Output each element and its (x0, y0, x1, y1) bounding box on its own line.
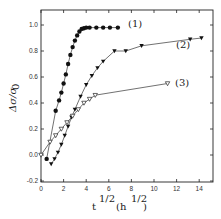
series-label-1: (1) (128, 18, 142, 29)
svg-text:): ) (143, 201, 147, 212)
svg-text:0: 0 (39, 185, 43, 192)
svg-text:-0.2: -0.2 (27, 177, 39, 184)
svg-text:10: 10 (150, 185, 158, 192)
x-axis-label: t 1/2 (h 1/2 ) (92, 193, 147, 212)
y-axis-label: Δσ/σ 0 (7, 84, 21, 113)
svg-text:0.4: 0.4 (29, 99, 38, 106)
chart: 02468101214 -0.20.00.20.40.60.81.0 (1) (… (0, 0, 221, 219)
svg-text:1.0: 1.0 (29, 21, 38, 28)
svg-text:1/2: 1/2 (99, 193, 115, 204)
svg-text:2: 2 (62, 185, 66, 192)
svg-text:4: 4 (84, 185, 88, 192)
svg-text:8: 8 (130, 185, 134, 192)
plot-frame (41, 10, 213, 182)
svg-text:6: 6 (107, 185, 111, 192)
svg-text:(h: (h (116, 201, 127, 212)
svg-text:0.0: 0.0 (29, 151, 38, 158)
svg-text:0.2: 0.2 (29, 125, 38, 132)
x-axis-ticks: 02468101214 (39, 10, 203, 192)
svg-text:0.6: 0.6 (29, 73, 38, 80)
svg-text:0.8: 0.8 (29, 47, 38, 54)
svg-text:12: 12 (173, 185, 181, 192)
series-label-2: (2) (176, 39, 190, 50)
svg-text:t: t (92, 201, 96, 212)
series-label-3: (3) (175, 77, 189, 88)
svg-text:14: 14 (196, 185, 204, 192)
svg-text:0: 0 (10, 84, 21, 90)
